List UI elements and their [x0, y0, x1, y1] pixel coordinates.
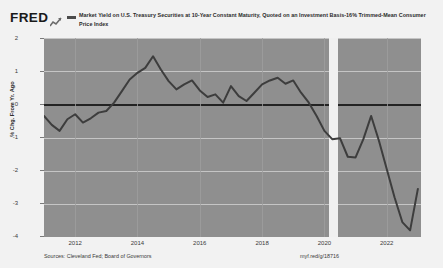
y-tick-label: -3	[0, 200, 18, 206]
x-tick-label: 2018	[242, 240, 282, 246]
line-chart-icon	[50, 13, 62, 23]
legend-series-label: Market Yield on U.S. Treasury Securities…	[79, 11, 435, 28]
fred-logo: FRED	[10, 11, 48, 24]
y-tick-label: -4	[0, 233, 18, 239]
plot-area	[44, 38, 421, 237]
y-tick-label: 0	[0, 101, 18, 107]
x-tick-label: 2022	[367, 240, 407, 246]
legend-color-swatch	[67, 16, 76, 19]
series-path	[44, 56, 418, 230]
x-tick-label: 2014	[117, 240, 157, 246]
y-tick-label: 1	[0, 68, 18, 74]
x-tick-label: 2016	[180, 240, 220, 246]
x-tick-label: 2012	[55, 240, 95, 246]
x-tick-label: 2020	[304, 240, 344, 246]
fred-chart-figure: FRED Market Yield on U.S. Treasury Secur…	[0, 0, 443, 268]
y-tick-label: -1	[0, 134, 18, 140]
y-tick-label: 2	[0, 35, 18, 41]
footer-permalink[interactable]: myf.red/g/18716	[300, 253, 339, 259]
footer-sources: Sources: Cleveland Fed; Board of Governo…	[44, 253, 152, 259]
data-series-line	[44, 38, 421, 237]
chart-header: FRED Market Yield on U.S. Treasury Secur…	[0, 0, 443, 36]
y-tick-label: -2	[0, 167, 18, 173]
